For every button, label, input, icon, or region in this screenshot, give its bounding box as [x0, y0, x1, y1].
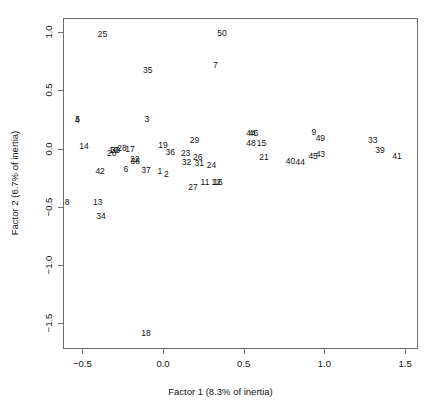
- plot-area: [63, 18, 418, 349]
- data-point-label: 44: [295, 157, 304, 166]
- data-point-label: 2: [164, 169, 169, 178]
- y-tick-label: 1.0: [43, 25, 54, 38]
- x-tick-label: 1.5: [398, 358, 411, 369]
- x-tick-label: 1.0: [318, 358, 331, 369]
- data-point-label: 27: [188, 183, 197, 192]
- y-tick-label: 0.0: [43, 142, 54, 155]
- data-point-label: 32: [182, 157, 191, 166]
- scatter-plot-figure: 2550357543949464433481529141939103028173…: [0, 0, 441, 414]
- data-point-label: 6: [124, 164, 129, 173]
- data-point-label: 49: [316, 134, 325, 143]
- data-point-label: 21: [259, 153, 268, 162]
- y-tick-mark: [58, 323, 63, 324]
- y-tick-label: 0.5: [43, 84, 54, 97]
- data-point-label: 13: [93, 197, 102, 206]
- x-tick-mark: [82, 349, 83, 354]
- data-point-label: 31: [195, 158, 204, 167]
- x-tick-label: −0.5: [73, 358, 92, 369]
- data-point-label: 24: [207, 160, 216, 169]
- y-tick-label: −1.5: [43, 314, 54, 333]
- data-point-label: 36: [166, 148, 175, 157]
- data-point-label: 48: [246, 138, 255, 147]
- data-point-label: 18: [141, 329, 150, 338]
- y-tick-label: −1.0: [43, 256, 54, 275]
- data-point-label: 25: [98, 29, 107, 38]
- x-tick-label: 0.0: [156, 358, 169, 369]
- y-axis-title: Factor 2 (6.7% of inertia): [9, 131, 20, 236]
- data-point-label: 7: [213, 60, 218, 69]
- data-point-label: 17: [125, 145, 134, 154]
- data-point-label: 16: [213, 178, 222, 187]
- y-tick-mark: [58, 149, 63, 150]
- x-tick-mark: [163, 349, 164, 354]
- data-point-label: 8: [65, 197, 70, 206]
- y-tick-mark: [58, 265, 63, 266]
- x-axis-title: Factor 1 (8.3% of inertia): [0, 386, 441, 397]
- y-tick-label: −0.5: [43, 197, 54, 216]
- data-point-label: 20: [107, 149, 116, 158]
- data-point-label: 14: [79, 142, 88, 151]
- y-tick-mark: [58, 32, 63, 33]
- data-point-label: 40: [286, 157, 295, 166]
- data-point-label: 34: [96, 212, 105, 221]
- data-point-label: 38: [131, 157, 140, 166]
- data-point-label: 39: [375, 145, 384, 154]
- data-point-label: 33: [368, 135, 377, 144]
- x-tick-mark: [324, 349, 325, 354]
- data-point-label: 41: [392, 152, 401, 161]
- data-point-label: 43: [316, 150, 325, 159]
- data-point-label: 37: [141, 165, 150, 174]
- data-point-label: 44: [246, 128, 255, 137]
- x-tick-mark: [405, 349, 406, 354]
- x-tick-mark: [244, 349, 245, 354]
- data-point-label: 1: [157, 166, 162, 175]
- data-point-label: 29: [190, 135, 199, 144]
- data-point-label: 50: [217, 29, 226, 38]
- x-tick-label: 0.5: [237, 358, 250, 369]
- data-point-label: 15: [257, 138, 266, 147]
- data-point-label: 3: [145, 115, 150, 124]
- data-point-label: 35: [143, 65, 152, 74]
- data-point-label: 42: [95, 166, 104, 175]
- y-tick-mark: [58, 207, 63, 208]
- data-point-label: 4: [75, 115, 80, 124]
- y-tick-mark: [58, 90, 63, 91]
- data-point-label: 11: [201, 178, 210, 187]
